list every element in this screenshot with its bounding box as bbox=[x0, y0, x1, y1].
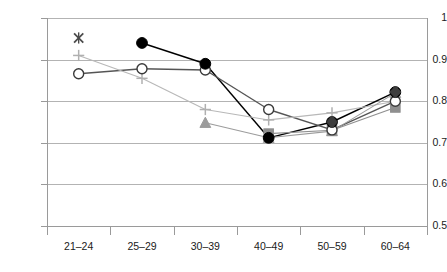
y-tick-label-0.7: 0.7 bbox=[409, 137, 447, 147]
gridline-0.7 bbox=[47, 143, 427, 144]
y-tick-mark-0.6 bbox=[41, 184, 47, 185]
y-axis-line bbox=[47, 18, 48, 226]
x-tick-mark-0 bbox=[47, 226, 48, 235]
y-tick-label-0.6: 0.6 bbox=[409, 178, 447, 188]
x-tick-mark-2 bbox=[174, 226, 175, 235]
y-tick-label-0.8: 0.8 bbox=[409, 95, 447, 105]
x-tick-mark-5 bbox=[364, 226, 365, 235]
x-tick-mark-4 bbox=[300, 226, 301, 235]
gridline-0.8 bbox=[47, 101, 427, 102]
plot-area bbox=[47, 18, 427, 226]
y-tick-mark-0.8 bbox=[41, 101, 47, 102]
chart-container: 10.90.80.70.60.5 21–2425–2930–3940–4950–… bbox=[0, 0, 447, 272]
y-tick-mark-1 bbox=[41, 18, 47, 19]
x-tick-mark-6 bbox=[427, 226, 428, 235]
gridline-1 bbox=[47, 18, 427, 19]
y-tick-mark-0.7 bbox=[41, 143, 47, 144]
gridline-0.9 bbox=[47, 60, 427, 61]
y-tick-label-1: 1 bbox=[409, 12, 447, 22]
x-tick-mark-1 bbox=[110, 226, 111, 235]
x-tick-label-60–64: 60–64 bbox=[355, 240, 435, 252]
x-tick-mark-3 bbox=[237, 226, 238, 235]
y-tick-label-0.9: 0.9 bbox=[409, 54, 447, 64]
y-tick-label-0.5: 0.5 bbox=[409, 220, 447, 230]
gridline-0.6 bbox=[47, 184, 427, 185]
y-tick-mark-0.9 bbox=[41, 60, 47, 61]
plot-right-border bbox=[427, 18, 428, 226]
